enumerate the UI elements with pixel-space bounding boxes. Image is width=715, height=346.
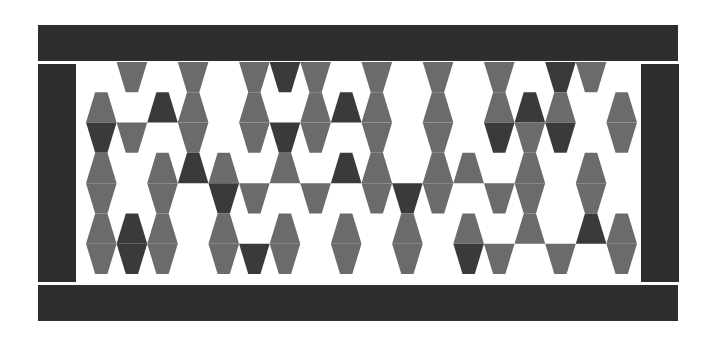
trapezoid-tile xyxy=(484,183,515,213)
trapezoid-tile xyxy=(117,123,148,153)
trapezoid-tile xyxy=(178,92,209,122)
trapezoid-tile xyxy=(239,183,270,213)
trapezoid-tile xyxy=(270,213,301,243)
trapezoid-tile xyxy=(515,183,546,213)
trapezoid-tile xyxy=(331,244,362,274)
trapezoid-tile xyxy=(576,62,607,92)
trapezoid-tile xyxy=(208,244,239,274)
trapezoid-tile xyxy=(86,213,117,243)
frame-bar-bottom xyxy=(38,285,678,321)
trapezoid-tile xyxy=(545,62,576,92)
trapezoid-tile xyxy=(300,183,331,213)
trapezoid-tile xyxy=(300,62,331,92)
trapezoid-tile xyxy=(362,92,393,122)
trapezoid-tile xyxy=(606,244,637,274)
trapezoid-tile xyxy=(178,62,209,92)
trapezoid-tile xyxy=(484,244,515,274)
trapezoid-tile xyxy=(147,153,178,183)
trapezoid-tile xyxy=(117,213,148,243)
trapezoid-tile xyxy=(239,92,270,122)
trapezoid-tile xyxy=(453,244,484,274)
trapezoid-tile xyxy=(86,92,117,122)
frame-bar-top xyxy=(38,25,678,61)
trapezoid-tile xyxy=(270,123,301,153)
trapezoid-tile xyxy=(423,153,454,183)
artwork-canvas xyxy=(0,0,715,346)
trapezoid-tile xyxy=(362,123,393,153)
trapezoid-tile xyxy=(423,183,454,213)
trapezoid-tile xyxy=(178,123,209,153)
trapezoid-tile xyxy=(576,183,607,213)
trapezoid-tile xyxy=(270,62,301,92)
trapezoid-tile xyxy=(423,62,454,92)
trapezoid-tile xyxy=(331,92,362,122)
trapezoid-tile xyxy=(147,183,178,213)
trapezoid-tile xyxy=(392,213,423,243)
trapezoid-tile xyxy=(239,62,270,92)
trapezoid-tile xyxy=(117,62,148,92)
trapezoid-tile xyxy=(453,153,484,183)
trapezoid-tile xyxy=(270,244,301,274)
trapezoid-tile xyxy=(300,92,331,122)
trapezoid-tile xyxy=(239,244,270,274)
trapezoid-tile xyxy=(484,92,515,122)
trapezoid-tile xyxy=(117,244,148,274)
trapezoid-tile xyxy=(392,244,423,274)
trapezoid-tile xyxy=(147,244,178,274)
trapezoid-tile xyxy=(423,92,454,122)
trapezoid-tile xyxy=(270,153,301,183)
trapezoid-tile xyxy=(392,183,423,213)
trapezoid-tile xyxy=(178,153,209,183)
trapezoid-tile xyxy=(484,123,515,153)
trapezoid-tile xyxy=(362,62,393,92)
trapezoid-tile xyxy=(515,213,546,243)
trapezoid-tile xyxy=(86,123,117,153)
trapezoid-tile xyxy=(300,123,331,153)
trapezoid-tile xyxy=(86,244,117,274)
trapezoid-tile xyxy=(515,123,546,153)
trapezoid-tile xyxy=(423,123,454,153)
trapezoid-tile xyxy=(484,62,515,92)
trapezoid-tile xyxy=(362,153,393,183)
trapezoid-tile xyxy=(576,213,607,243)
trapezoid-tile xyxy=(545,244,576,274)
trapezoid-tile xyxy=(515,153,546,183)
trapezoid-tile xyxy=(331,153,362,183)
trapezoid-tile xyxy=(86,153,117,183)
frame-bar-left xyxy=(38,64,76,282)
trapezoid-tile xyxy=(208,213,239,243)
trapezoid-tile xyxy=(331,213,362,243)
trapezoid-tile xyxy=(86,183,117,213)
frame-bar-right xyxy=(641,64,679,282)
trapezoid-tile xyxy=(147,92,178,122)
trapezoid-tile xyxy=(606,123,637,153)
trapezoid-tile xyxy=(515,92,546,122)
trapezoid-tile xyxy=(239,123,270,153)
trapezoid-tile xyxy=(208,153,239,183)
trapezoid-tile xyxy=(147,213,178,243)
trapezoid-tile xyxy=(545,123,576,153)
trapezoid-tile xyxy=(453,213,484,243)
trapezoid-tile xyxy=(606,213,637,243)
trapezoid-tile xyxy=(606,92,637,122)
trapezoid-pattern-svg xyxy=(86,62,637,274)
trapezoid-pattern-panel xyxy=(86,62,637,274)
trapezoid-tile xyxy=(362,183,393,213)
trapezoid-tile xyxy=(576,153,607,183)
trapezoid-tile xyxy=(545,92,576,122)
trapezoid-tile xyxy=(208,183,239,213)
